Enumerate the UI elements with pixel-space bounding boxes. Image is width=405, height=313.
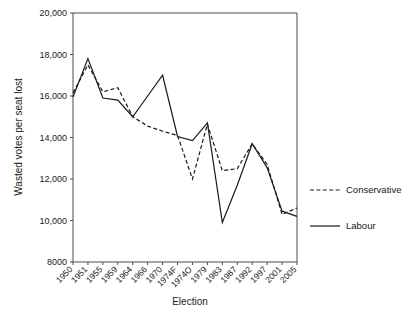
series-line-labour: [73, 59, 297, 223]
plot-frame: [73, 13, 297, 262]
series-line-conservative: [73, 65, 297, 214]
y-tick-label: 14,000: [39, 133, 67, 143]
x-axis-title: Election: [172, 296, 208, 307]
y-tick-label: 18,000: [39, 50, 67, 60]
x-tick-label: 2005: [278, 264, 299, 285]
y-tick-label: 12,000: [39, 174, 67, 184]
y-axis-tick-labels: 20,00018,00016,00014,00012,00010,0008000: [39, 8, 67, 267]
legend-label-labour: Labour: [346, 220, 376, 231]
y-tick-label: 20,000: [39, 8, 67, 18]
legend-label-conservative: Conservative: [346, 184, 401, 195]
y-tick-label: 10,000: [39, 216, 67, 226]
chart-figure: 20,00018,00016,00014,00012,00010,0008000…: [0, 0, 405, 313]
x-axis-tick-labels: 19501951195519591964196619701974F1974O19…: [54, 264, 299, 289]
chart-legend: ConservativeLabour: [310, 184, 401, 231]
y-tick-label: 8000: [47, 257, 67, 267]
line-chart: 20,00018,00016,00014,00012,00010,0008000…: [0, 0, 405, 313]
y-tick-label: 16,000: [39, 91, 67, 101]
y-axis-title: Wasted votes per seat lost: [13, 78, 24, 196]
data-series-layer: [73, 59, 297, 223]
